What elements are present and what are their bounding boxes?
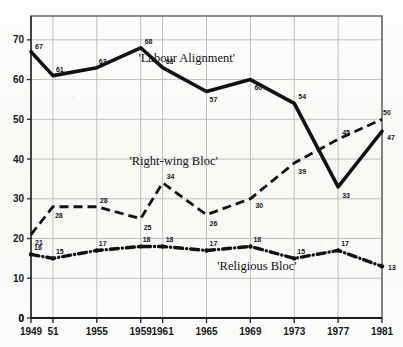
y-axis-labels-group: 0102030405060700 (13, 34, 25, 323)
series-point-marker (336, 248, 340, 252)
right-wing-bloc-annotation: 'Right-wing Bloc' (130, 154, 218, 168)
x-tick-label: 1961 (152, 326, 175, 337)
election-seats-line-chart: 6761636863576054334721282825342630394550… (0, 0, 403, 347)
data-point-label: 17 (99, 240, 107, 247)
series-point-marker (29, 252, 33, 256)
data-point-label: 34 (167, 173, 175, 180)
data-point-label: 13 (388, 264, 396, 271)
x-tick-label: 1969 (239, 326, 262, 337)
series-point-marker (95, 248, 99, 252)
x-axis-labels-group: 19495119551959196119651969197319771981 (20, 326, 394, 337)
data-point-label: 60 (254, 84, 262, 91)
y-tick-label: 20 (13, 233, 25, 244)
data-point-label: 26 (210, 220, 218, 227)
x-tick-label: 1977 (327, 326, 350, 337)
data-point-label: 15 (297, 248, 305, 255)
data-point-label: 30 (255, 202, 263, 209)
series-point-marker (204, 248, 208, 252)
data-point-label: 57 (210, 96, 218, 103)
y-tick-label: 40 (13, 154, 25, 165)
series-point-marker (380, 264, 384, 268)
x-tick-label: 1955 (86, 326, 109, 337)
data-point-label: 63 (99, 58, 107, 65)
data-point-label: 33 (342, 192, 350, 199)
data-point-label: 18 (143, 236, 151, 243)
data-point-label: 17 (210, 240, 218, 247)
series-point-marker (51, 256, 55, 260)
data-point-label: 47 (387, 134, 395, 141)
data-point-label: 54 (298, 93, 306, 100)
data-point-label: 15 (56, 248, 64, 255)
x-tick-label: 1965 (195, 326, 218, 337)
data-point-label: 68 (145, 38, 153, 45)
series-point-marker (138, 244, 142, 248)
x-tick-label: 1973 (283, 326, 306, 337)
y-tick-label: 70 (13, 34, 25, 45)
data-point-label: 17 (341, 240, 349, 247)
data-point-label: 16 (34, 244, 42, 251)
y-tick-label: 30 (13, 193, 25, 204)
chart-page: 6761636863576054334721282825342630394550… (0, 0, 403, 347)
data-point-label: 61 (56, 66, 64, 73)
x-tick-label: 1949 (20, 326, 43, 337)
data-point-label: 25 (144, 224, 152, 231)
y-tick-label: 10 (13, 273, 25, 284)
data-point-label: 67 (35, 43, 43, 50)
data-point-label: 18 (253, 236, 261, 243)
data-point-label: 28 (100, 197, 108, 204)
y-tick-label: 60 (13, 74, 25, 85)
x-tick-label: 1981 (371, 326, 394, 337)
data-point-label: 28 (55, 212, 63, 219)
y-tick-label: 50 (13, 114, 25, 125)
x-tick-label: 51 (47, 326, 59, 337)
religious-bloc-annotation: 'Religious Bloc' (217, 259, 296, 273)
data-point-label: 18 (166, 236, 174, 243)
data-point-label: 39 (298, 168, 306, 175)
labour-alignment-annotation: 'Labour Alignment' (138, 51, 235, 65)
x-tick-label: 1959 (130, 326, 153, 337)
series-point-marker (248, 244, 252, 248)
series-annotations-group: 'Labour Alignment''Right-wing Bloc''Reli… (130, 51, 297, 273)
y-axis-origin-label: 0 (18, 313, 24, 324)
data-point-label: 45 (342, 129, 350, 136)
data-point-label: 50 (383, 109, 391, 116)
series-point-marker (160, 244, 164, 248)
